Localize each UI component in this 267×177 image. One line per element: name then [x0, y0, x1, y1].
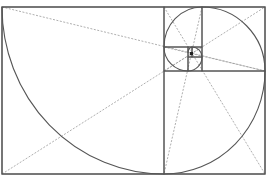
background — [0, 0, 267, 177]
golden-spiral-diagram — [0, 0, 267, 177]
spiral-center-mark — [190, 52, 193, 55]
